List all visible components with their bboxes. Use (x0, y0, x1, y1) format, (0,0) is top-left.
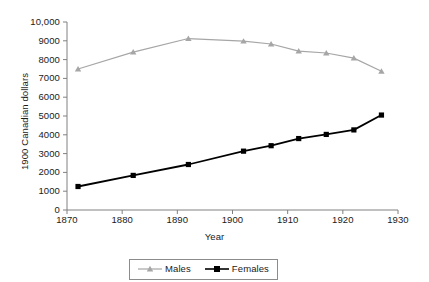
data-point-marker (131, 173, 136, 178)
x-tick-label: 1930 (373, 214, 423, 225)
x-tick-label: 1890 (152, 214, 202, 225)
x-tick-label: 1870 (42, 214, 92, 225)
x-tick-label: 1910 (263, 214, 313, 225)
legend-item-males: Males (138, 264, 191, 274)
x-axis-label: Year (0, 231, 429, 242)
chart-legend: Males Females (129, 259, 278, 280)
data-point-marker (269, 143, 274, 148)
data-point-marker (241, 149, 246, 154)
line-chart: 1900 Canadian dollars 010002000300040005… (0, 0, 429, 282)
series-males (75, 36, 385, 74)
legend-marker-females-icon (205, 264, 229, 274)
legend-label-females: Females (232, 264, 269, 274)
data-point-marker (324, 132, 329, 137)
series-line (78, 39, 381, 72)
data-point-marker (75, 184, 80, 189)
legend-item-females: Females (205, 264, 269, 274)
data-point-marker (296, 136, 301, 141)
series-line (78, 115, 381, 186)
x-tick-label: 1920 (318, 214, 368, 225)
axes (67, 22, 398, 210)
data-point-marker (379, 112, 384, 117)
data-point-marker (378, 68, 384, 73)
data-point-marker (186, 162, 191, 167)
legend-label-males: Males (165, 264, 191, 274)
data-point-marker (351, 127, 356, 132)
legend-marker-males-icon (138, 264, 162, 274)
series-females (75, 112, 384, 189)
x-tick-label: 1880 (97, 214, 147, 225)
x-tick-label: 1900 (208, 214, 258, 225)
y-axis-ticks (63, 22, 67, 210)
